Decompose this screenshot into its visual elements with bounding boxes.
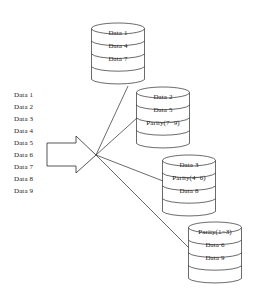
disk-1-band-label: Data 1 <box>91 29 145 37</box>
disk-1: Data 1Data 4Data 7 <box>91 23 145 85</box>
source-data-item: Data 3 <box>14 113 58 125</box>
source-data-item: Data 9 <box>14 185 58 197</box>
disk-3-band-label: Parity(4−6) <box>162 174 216 182</box>
source-data-item: Data 1 <box>14 89 58 101</box>
disk-3-band-label: Data 8 <box>162 187 216 195</box>
disk-2: Data 2Data 5Parity(7−9) <box>136 87 190 149</box>
source-data-item: Data 8 <box>14 173 58 185</box>
disk-4: Parity(1−3)Data 6Data 9 <box>188 222 242 284</box>
raid-diagram-canvas: Data 1Data 2Data 3Data 4Data 5Data 6Data… <box>0 0 256 300</box>
disk-2-band-label: Data 5 <box>136 106 190 114</box>
input-data-stream: Data 1Data 2Data 3Data 4Data 5Data 6Data… <box>14 89 58 197</box>
disk-4-band-label: Data 9 <box>188 254 242 262</box>
disk-2-band-label: Data 2 <box>136 93 190 101</box>
disk-4-band-label: Data 6 <box>188 241 242 249</box>
disk-1-band-label: Data 4 <box>91 42 145 50</box>
disk-4-band-label: Parity(1−3) <box>188 228 242 236</box>
disk-3: Data 3Parity(4−6)Data 8 <box>162 155 216 217</box>
source-data-item: Data 2 <box>14 101 58 113</box>
source-data-item: Data 6 <box>14 149 58 161</box>
connector-to-disk-3 <box>96 155 163 181</box>
source-data-item: Data 5 <box>14 137 58 149</box>
disk-1-band-label: Data 7 <box>91 55 145 63</box>
connector-to-disk-1 <box>96 86 128 155</box>
source-data-item: Data 4 <box>14 125 58 137</box>
source-data-item: Data 7 <box>14 161 58 173</box>
disk-3-band-label: Data 3 <box>162 161 216 169</box>
disk-2-band-label: Parity(7−9) <box>136 119 190 127</box>
connector-to-disk-2 <box>96 118 137 155</box>
